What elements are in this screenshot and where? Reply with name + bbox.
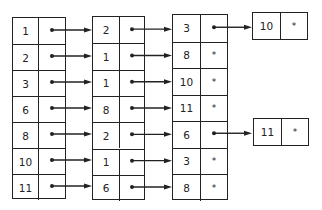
cell-key: 6	[13, 97, 39, 122]
pointer-dot-icon	[39, 175, 65, 200]
list-cell: 6	[173, 121, 227, 148]
cell-key: 1	[13, 18, 39, 44]
cell-key: 2	[13, 45, 39, 70]
cell-key: 1	[93, 71, 120, 96]
cell-key: 8	[93, 97, 120, 122]
cell-key: 11	[173, 96, 201, 122]
list-cell: 6	[13, 96, 65, 122]
list-cell: 8	[13, 122, 65, 148]
cell-key: 8	[173, 43, 201, 69]
pointer-dot-icon	[39, 123, 65, 148]
list-cell: 1	[13, 18, 65, 44]
list-cell: 3	[13, 70, 65, 96]
pointer-dot-icon	[120, 71, 144, 96]
cell-key: 10	[13, 149, 39, 174]
array-column-1: 123681011	[12, 17, 66, 199]
list-cell: 1	[93, 149, 144, 175]
cell-key: 1	[93, 150, 120, 175]
null-pointer: *	[281, 13, 307, 39]
list-cell: 10*	[173, 68, 227, 95]
node-key: 10	[253, 13, 281, 39]
pointer-dot-icon	[39, 45, 65, 70]
cell-key: 3	[13, 71, 39, 96]
pointer-dot-icon	[120, 176, 144, 201]
pointer-dot-icon	[201, 122, 227, 148]
pointer-dot-icon	[120, 123, 144, 148]
cell-key: 3	[173, 149, 201, 175]
array-column-3: 38*10*11*63*8*	[172, 14, 228, 200]
array-column-2: 2118216	[92, 16, 145, 200]
pointer-dot-icon	[120, 150, 144, 175]
pointer-dot-icon	[201, 15, 227, 42]
list-cell: 11*	[173, 95, 227, 122]
cell-key: 3	[173, 15, 201, 42]
list-cell: 1	[93, 43, 144, 69]
list-cell: 2	[13, 44, 65, 70]
null-pointer: *	[201, 43, 227, 69]
list-cell: 3*	[173, 148, 227, 175]
cell-key: 6	[173, 122, 201, 148]
pointer-dot-icon	[39, 149, 65, 174]
cell-key: 1	[93, 44, 120, 69]
cell-key: 2	[93, 123, 120, 148]
list-cell: 8*	[173, 174, 227, 201]
list-cell: 1	[93, 70, 144, 96]
cell-key: 2	[93, 17, 120, 43]
list-cell: 8*	[173, 42, 227, 69]
null-pointer: *	[201, 69, 227, 95]
cell-key: 8	[13, 123, 39, 148]
null-pointer: *	[201, 96, 227, 122]
pointer-dot-icon	[39, 71, 65, 96]
null-pointer: *	[201, 149, 227, 175]
list-cell: 2	[93, 122, 144, 148]
list-cell: 10	[13, 148, 65, 174]
overflow-node: 10*	[252, 12, 308, 40]
pointer-dot-icon	[39, 18, 65, 44]
pointer-dot-icon	[39, 97, 65, 122]
node-key: 11	[254, 119, 282, 145]
list-cell: 8	[93, 96, 144, 122]
list-cell: 3	[173, 15, 227, 42]
list-cell: 6	[93, 175, 144, 201]
overflow-node: 11*	[253, 118, 309, 146]
pointer-dot-icon	[120, 44, 144, 69]
cell-key: 8	[173, 175, 201, 201]
cell-key: 11	[13, 175, 39, 200]
list-cell: 2	[93, 17, 144, 43]
null-pointer: *	[282, 119, 308, 145]
list-cell: 11	[13, 174, 65, 200]
cell-key: 10	[173, 69, 201, 95]
pointer-dot-icon	[120, 17, 144, 43]
pointer-dot-icon	[120, 97, 144, 122]
null-pointer: *	[201, 175, 227, 201]
cell-key: 6	[93, 176, 120, 201]
